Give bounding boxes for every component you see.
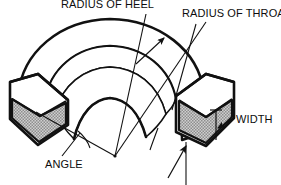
radius-center-vertex [113, 154, 116, 157]
elbow-fitting-illustration [0, 0, 281, 185]
label-radius-of-heel: RADIUS OF HEEL [61, 0, 154, 10]
label-width: WIDTH [236, 114, 273, 125]
diagram-canvas: RADIUS OF HEEL RADIUS OF THROAT WIDTH AN… [0, 0, 281, 185]
label-radius-of-throat: RADIUS OF THROAT [182, 8, 281, 19]
bottom-throat-arrow [168, 146, 186, 178]
label-angle: ANGLE [45, 159, 83, 170]
